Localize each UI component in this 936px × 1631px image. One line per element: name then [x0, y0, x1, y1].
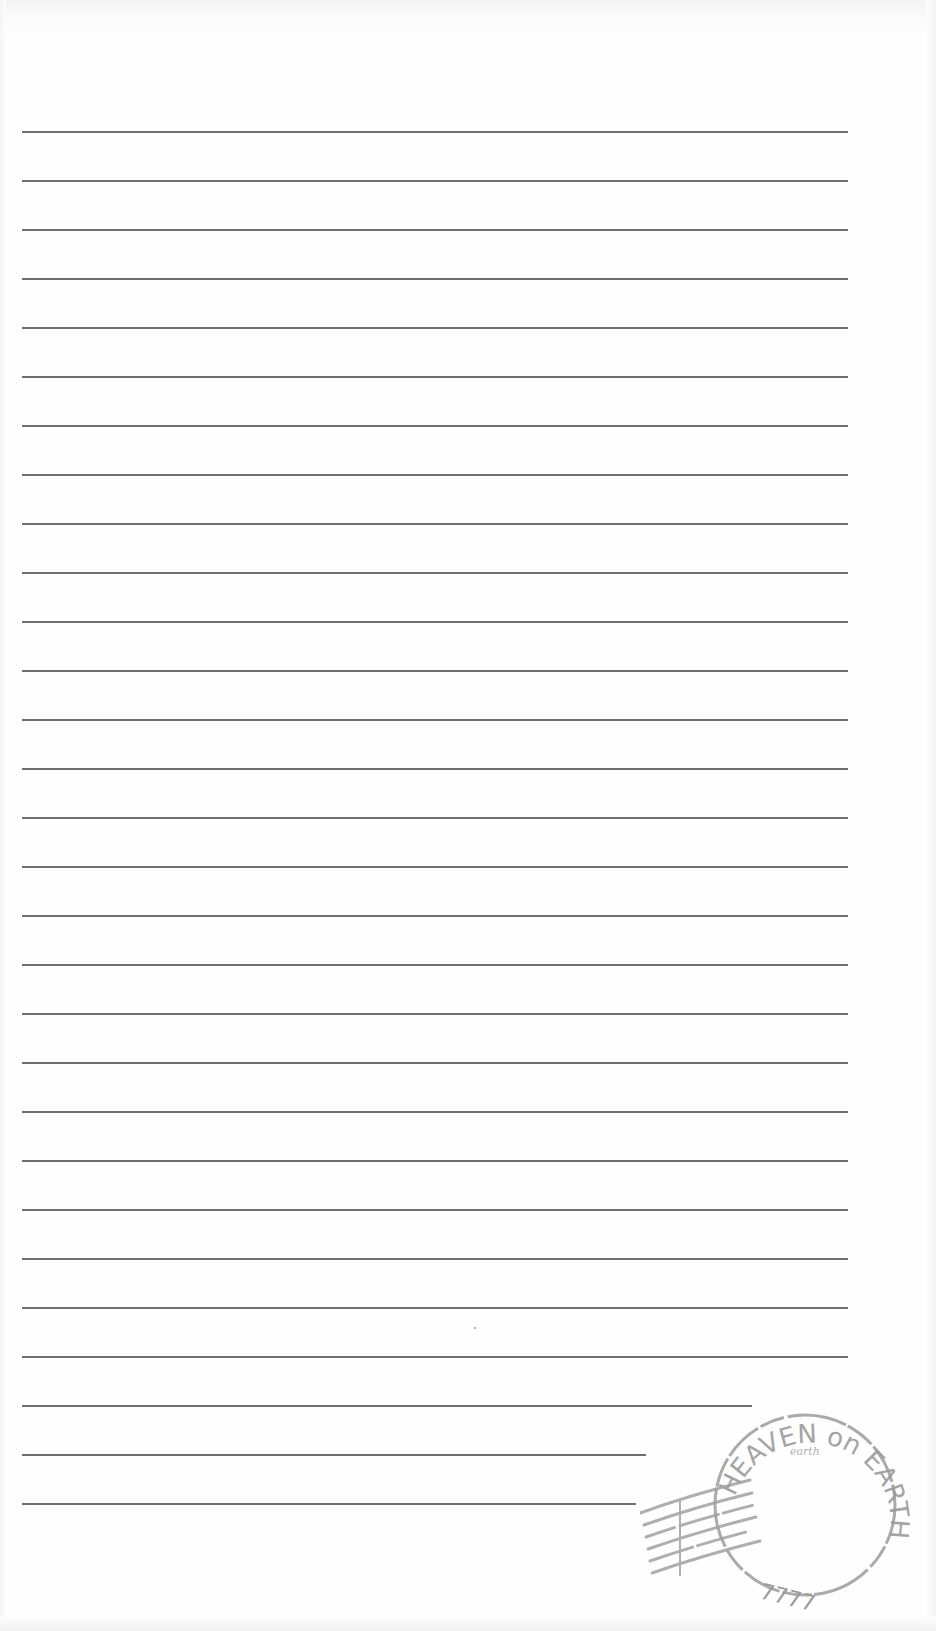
stamp-number: 7777	[757, 1579, 817, 1615]
paper-edge-bottom	[0, 1617, 936, 1631]
lined-paper: HEAVEN on EARTH earth 7777	[0, 0, 936, 1631]
writing-line	[22, 964, 848, 966]
writing-line	[22, 229, 848, 231]
writing-line	[22, 1454, 646, 1456]
writing-line	[22, 866, 848, 868]
writing-line	[22, 278, 848, 280]
writing-line	[22, 1160, 848, 1162]
writing-line	[22, 670, 848, 672]
writing-line	[22, 523, 848, 525]
paper-edge-right	[926, 0, 936, 1631]
writing-line	[22, 425, 848, 427]
writing-line	[22, 1503, 636, 1505]
writing-line	[22, 1356, 848, 1358]
writing-line	[22, 1062, 848, 1064]
writing-line	[22, 327, 848, 329]
writing-line	[22, 572, 848, 574]
paper-edge-left	[0, 0, 6, 1631]
writing-line	[22, 1307, 848, 1309]
writing-line	[22, 131, 848, 133]
writing-line	[22, 915, 848, 917]
writing-line	[22, 474, 848, 476]
writing-line	[22, 1209, 848, 1211]
postmark-stamp-icon: HEAVEN on EARTH earth 7777	[640, 1385, 910, 1615]
stamp-inner-text: earth	[790, 1445, 820, 1458]
writing-line	[22, 719, 848, 721]
writing-line	[22, 817, 848, 819]
writing-line	[22, 621, 848, 623]
writing-line	[22, 376, 848, 378]
writing-line	[22, 1013, 848, 1015]
writing-line	[22, 180, 848, 182]
writing-line	[22, 768, 848, 770]
paper-speck	[474, 1327, 476, 1329]
writing-line	[22, 1258, 848, 1260]
writing-line	[22, 1111, 848, 1113]
